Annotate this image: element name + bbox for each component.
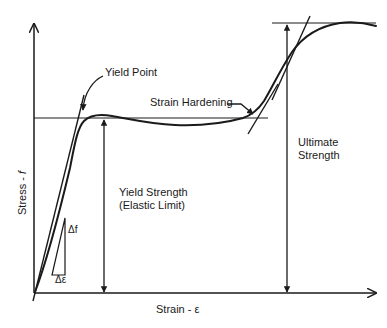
yield-point-label: Yield Point [105,66,157,79]
yield-point-leader [83,76,103,110]
strain-hardening-label: Strain Hardening [150,96,233,109]
x-axis-label-text: Strain - [156,303,195,315]
yield-strength-label-line2: (Elastic Limit) [119,199,185,212]
elastic-modulus-tangent-line [33,95,84,301]
delta-epsilon-label: Δε [55,273,66,286]
strain-hardening-tangent-line [248,84,278,134]
yield-strength-label-line1: Yield Strength [119,186,188,199]
delta-f-label: Δf [68,223,77,236]
y-axis-label: Stress - f [16,171,29,215]
modulus-slope-triangle [52,218,65,275]
ultimate-strength-label-line1: Ultimate [298,136,338,149]
ultimate-region-tangent-line [272,16,310,100]
x-axis-label: Strain - ε [156,303,199,316]
x-axis-label-symbol: ε [195,303,200,315]
y-axis-label-symbol: f [16,171,28,174]
ultimate-strength-label-line2: Strength [298,149,340,162]
stress-strain-diagram: Stress - f Strain - ε Yield Point Strain… [0,0,387,328]
slope-triangle-outline [52,218,65,275]
tangent-lines-group [33,16,310,301]
y-axis-label-text: Stress - [16,174,28,215]
